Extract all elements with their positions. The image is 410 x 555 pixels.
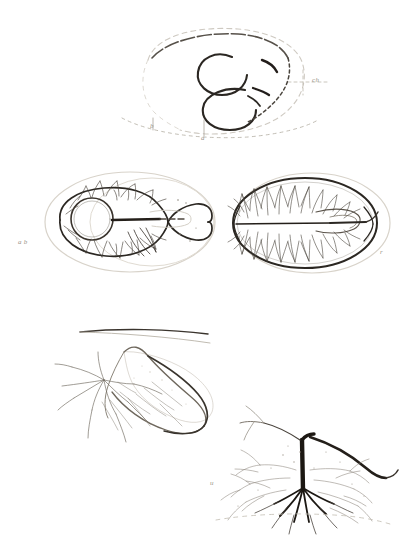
plate-canvas: b a ch [0,0,410,555]
label-fig5-u: u [210,479,214,487]
figure-bottom-right-trunk: u [0,0,410,555]
